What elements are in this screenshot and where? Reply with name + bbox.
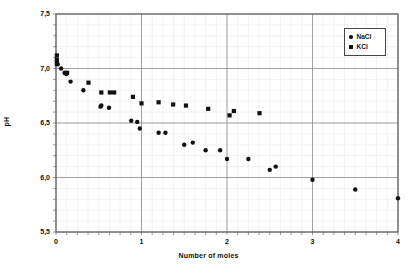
legend-item-nacl: NaCl xyxy=(349,32,382,42)
y-axis-title: pH xyxy=(3,107,10,137)
x-tick-label: 4 xyxy=(388,238,408,245)
y-tick-label: 5,5 xyxy=(24,228,50,235)
y-tick-label: 7,5 xyxy=(24,10,50,17)
x-tick-label: 3 xyxy=(303,238,323,245)
legend-label-kcl: KCl xyxy=(357,44,368,51)
series-kcl-points xyxy=(55,53,262,117)
square-marker-icon xyxy=(349,45,353,49)
y-tick-label: 7,0 xyxy=(24,65,50,72)
x-tick-label: 1 xyxy=(132,238,152,245)
circle-marker-icon xyxy=(349,35,353,39)
chart-legend: NaCl KCl xyxy=(344,28,386,56)
legend-item-kcl: KCl xyxy=(349,42,382,52)
series-nacl-points xyxy=(55,59,401,201)
legend-label-nacl: NaCl xyxy=(357,34,372,41)
x-tick-label: 2 xyxy=(217,238,237,245)
y-tick-label: 6,0 xyxy=(24,174,50,181)
x-tick-label: 0 xyxy=(46,238,66,245)
y-tick-label: 6,5 xyxy=(24,119,50,126)
x-axis-title: Number of moles xyxy=(0,252,417,259)
chart-figure: 7,57,06,56,05,5 01234 Number of moles pH… xyxy=(0,0,417,270)
